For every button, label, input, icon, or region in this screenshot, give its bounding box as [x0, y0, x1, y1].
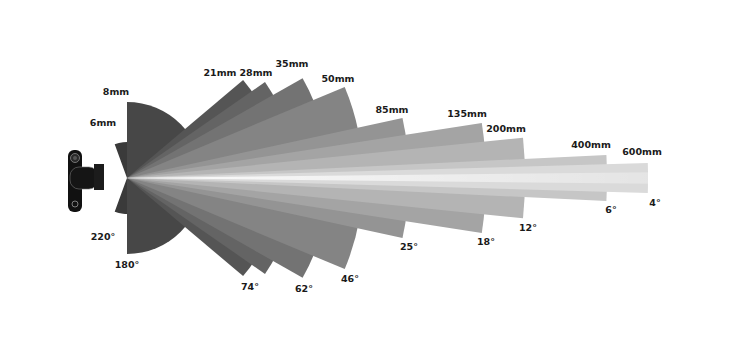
focal-label: 28mm	[239, 67, 272, 78]
camera-side-view-icon	[68, 150, 104, 212]
angle-label: 46°	[341, 273, 359, 284]
focal-label: 21mm	[203, 67, 236, 78]
focal-label: 8mm	[103, 86, 130, 97]
angle-label: 6°	[605, 204, 616, 215]
angle-label: 4°	[649, 197, 660, 208]
angle-label: 18°	[477, 236, 495, 247]
angle-label: 74°	[241, 281, 259, 292]
angle-label: 220°	[91, 231, 116, 242]
focal-label: 35mm	[275, 58, 308, 69]
focal-label: 6mm	[90, 117, 117, 128]
focal-length-diagram: 6mm8mm21mm28mm35mm50mm85mm135mm200mm400m…	[0, 0, 750, 358]
focal-label: 400mm	[571, 139, 611, 150]
angle-label: 180°	[115, 259, 140, 270]
focal-label: 600mm	[622, 146, 662, 157]
angle-label: 25°	[400, 241, 418, 252]
focal-label: 200mm	[486, 123, 526, 134]
focal-label: 50mm	[321, 73, 354, 84]
focal-label: 135mm	[447, 108, 487, 119]
focal-label: 85mm	[375, 104, 408, 115]
angle-label: 12°	[519, 222, 537, 233]
angle-of-view-fan: 6mm8mm21mm28mm35mm50mm85mm135mm200mm400m…	[0, 0, 750, 358]
angle-label: 62°	[295, 283, 313, 294]
